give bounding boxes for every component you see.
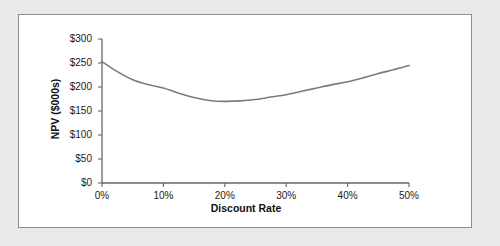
x-axis-tick-label: 20% xyxy=(205,191,245,201)
x-axis-tick-label: 40% xyxy=(328,191,368,201)
chart-panel: $0$50$100$150$200$250$300 0%10%20%30%40%… xyxy=(18,14,472,228)
x-axis-tick-label: 10% xyxy=(143,191,183,201)
chart-plot-area: $0$50$100$150$200$250$300 0%10%20%30%40%… xyxy=(19,15,473,229)
x-axis-tick-label: 50% xyxy=(389,191,429,201)
npv-curve-line xyxy=(102,62,409,102)
y-axis-tick-label: $0 xyxy=(46,178,92,188)
x-axis-tick-label: 0% xyxy=(82,191,122,201)
y-axis-tick-label: $300 xyxy=(46,34,92,44)
x-axis-tick-label: 30% xyxy=(266,191,306,201)
x-axis-title: Discount Rate xyxy=(19,202,473,214)
y-axis-title: NPV ($000s) xyxy=(49,49,61,169)
